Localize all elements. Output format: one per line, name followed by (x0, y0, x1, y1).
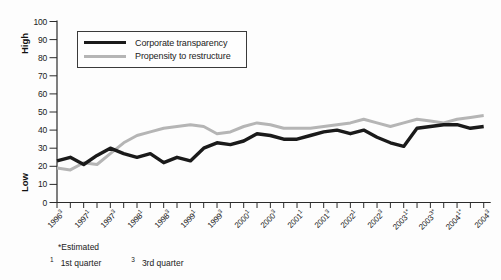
legend-label-corporate-transparency: Corporate transparency (135, 38, 227, 48)
y-tick-label: 100 (22, 17, 47, 27)
y-tick-label: 0 (22, 198, 47, 208)
plot-area (0, 0, 501, 280)
footnote-quarters: 11st quarter33rd quarter (50, 253, 183, 270)
chart-figure: High Low 0102030405060708090100 19963199… (0, 0, 501, 280)
y-tick-label: 90 (22, 35, 47, 45)
y-tick-label: 60 (22, 89, 47, 99)
footnote-q3-superscript: 3 (131, 256, 135, 263)
footnote-estimated: *Estimated (58, 242, 183, 253)
legend-line-swatch-black (84, 41, 126, 45)
line-propensity-to-restructure (57, 116, 484, 170)
y-tick-label: 70 (22, 71, 47, 81)
legend-item-propensity-to-restructure: Propensity to restructure (78, 51, 246, 61)
legend-line-swatch-gray (84, 55, 126, 58)
footnote-q3-text: 3rd quarter (142, 258, 184, 268)
y-tick-label: 30 (22, 143, 47, 153)
y-tick-label: 20 (22, 161, 47, 171)
legend: Corporate transparency Propensity to res… (77, 31, 247, 68)
legend-item-corporate-transparency: Corporate transparency (78, 38, 246, 48)
y-tick-label: 50 (22, 107, 47, 117)
footnotes: *Estimated 11st quarter33rd quarter (50, 242, 183, 270)
legend-label-propensity-to-restructure: Propensity to restructure (135, 51, 231, 61)
y-tick-label: 80 (22, 53, 47, 63)
y-tick-label: 10 (22, 179, 47, 189)
y-tick-label: 40 (22, 125, 47, 135)
footnote-q1-text: 1st quarter (61, 258, 102, 268)
footnote-q1-superscript: 1 (50, 256, 54, 263)
